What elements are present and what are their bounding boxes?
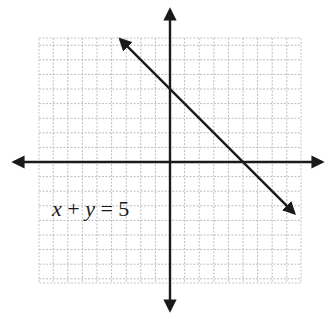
coordinate-plane (0, 0, 334, 319)
equation-var-y: y (85, 196, 95, 221)
line-x-plus-y-equals-5 (120, 39, 294, 213)
equation-label: x + y = 5 (52, 196, 129, 222)
equation-var-x: x (52, 196, 62, 221)
equation-plus: + (62, 196, 85, 221)
equation-rhs: = 5 (95, 196, 129, 221)
